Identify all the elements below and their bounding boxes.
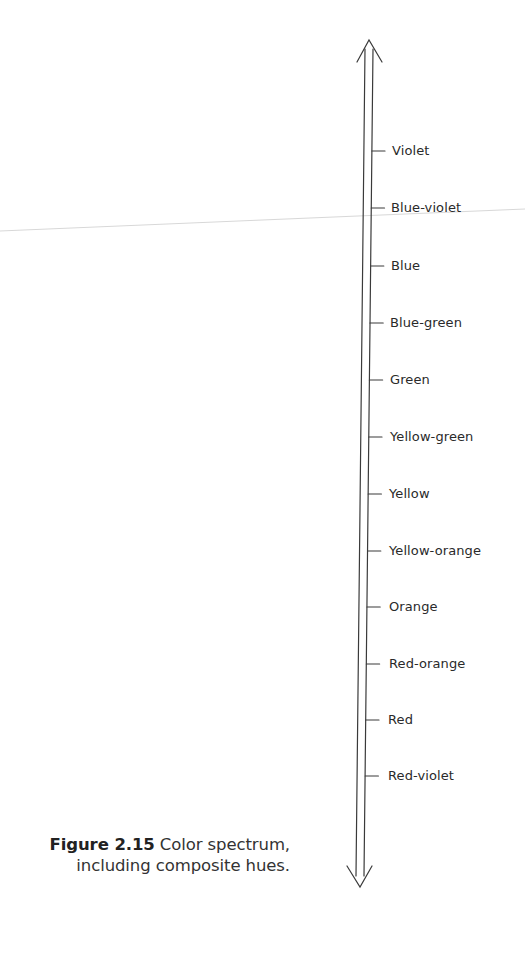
label-yellow-orange: Yellow-orange	[389, 543, 481, 559]
figure-caption: Figure 2.15 Color spectrum, including co…	[0, 834, 290, 876]
shaft-left-line	[356, 49, 365, 876]
arrow-up-icon	[357, 40, 382, 62]
spectrum-arrow	[0, 0, 525, 959]
label-blue: Blue	[391, 258, 420, 274]
label-violet: Violet	[392, 143, 429, 159]
label-red: Red	[388, 712, 413, 728]
label-red-orange: Red-orange	[389, 656, 465, 672]
label-blue-green: Blue-green	[390, 315, 462, 331]
label-orange: Orange	[389, 599, 438, 615]
caption-line-2: including composite hues.	[0, 855, 290, 876]
label-yellow-green: Yellow-green	[390, 429, 473, 445]
figure-number: Figure 2.15	[50, 835, 155, 854]
label-green: Green	[390, 372, 430, 388]
caption-line-1: Figure 2.15 Color spectrum,	[0, 834, 290, 855]
shaft-right-line	[364, 49, 373, 876]
label-yellow: Yellow	[389, 486, 430, 502]
label-red-violet: Red-violet	[388, 768, 454, 784]
label-blue-violet: Blue-violet	[391, 200, 461, 216]
caption-text-1: Color spectrum,	[155, 835, 290, 854]
arrow-down-icon	[347, 866, 372, 887]
